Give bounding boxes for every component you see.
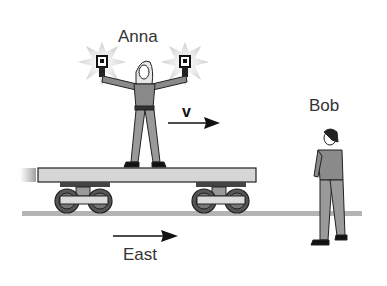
bob-label: Bob: [309, 96, 339, 116]
diagram-canvas: [0, 0, 387, 286]
motion-blur: [20, 168, 36, 182]
anna-label: Anna: [118, 27, 158, 47]
lamp-left-icon: [97, 56, 107, 77]
east-arrow-icon: [113, 230, 178, 242]
east-label: East: [123, 245, 157, 265]
relativity-diagram: Anna v Bob East: [0, 0, 387, 286]
lamp-right-icon: [180, 56, 190, 77]
velocity-arrow-icon: [168, 117, 220, 129]
velocity-label: v: [182, 103, 191, 121]
flatcar: [38, 168, 256, 213]
bob-figure: [311, 129, 347, 245]
